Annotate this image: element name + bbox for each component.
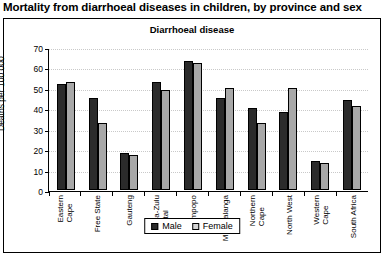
bar-group <box>50 49 82 190</box>
y-axis-tick <box>45 172 49 173</box>
chart-legend: Male Female <box>144 218 240 234</box>
page-title: Mortality from diarrhoeal diseases in ch… <box>3 1 386 13</box>
y-axis-tick-label: 0 <box>38 188 43 197</box>
bar-male[interactable] <box>343 100 352 190</box>
legend-label-male: Male <box>162 221 182 231</box>
x-axis-label-cell: South Africa <box>337 195 369 247</box>
x-axis-label: EasternCape <box>56 195 74 223</box>
legend-label-female: Female <box>203 221 233 231</box>
x-axis-label: NorthernCape <box>248 195 266 226</box>
x-axis-label-cell: North West <box>273 195 305 247</box>
x-axis-label-cell: Gauteng <box>113 195 145 247</box>
bar-female[interactable] <box>288 88 297 190</box>
bar-group <box>82 49 114 190</box>
bar-male[interactable] <box>184 61 193 190</box>
y-axis-tick-label: 10 <box>34 167 43 176</box>
y-axis-title: Deaths per 100 000 <box>0 56 6 131</box>
x-axis-label-cell: WesternCape <box>305 195 337 247</box>
plot-area: 010203040506070 <box>48 49 368 192</box>
y-axis-tick <box>45 69 49 70</box>
bar-group <box>177 49 209 190</box>
x-axis-label-cell: NorthernCape <box>241 195 273 247</box>
bar-female[interactable] <box>225 88 234 190</box>
bar-group <box>304 49 336 190</box>
legend-item-male: Male <box>151 221 182 231</box>
bar-group <box>114 49 146 190</box>
y-axis-tick <box>45 110 49 111</box>
bar-male[interactable] <box>311 161 320 190</box>
bar-female[interactable] <box>320 163 329 190</box>
plot-area-wrapper: 010203040506070 <box>48 49 368 192</box>
bar-female[interactable] <box>129 155 138 190</box>
x-axis-label: Free State <box>93 195 102 232</box>
bar-male[interactable] <box>279 112 288 190</box>
y-axis-tick <box>45 151 49 152</box>
bar-group <box>241 49 273 190</box>
x-axis-label: WesternCape <box>312 195 330 225</box>
y-axis-tick <box>45 131 49 132</box>
bar-group <box>209 49 241 190</box>
bar-female[interactable] <box>352 106 361 190</box>
bar-male[interactable] <box>89 98 98 190</box>
x-axis-label: North West <box>285 195 294 235</box>
y-axis-tick-label: 30 <box>34 126 43 135</box>
bar-male[interactable] <box>216 98 225 190</box>
y-axis-tick <box>45 90 49 91</box>
bar-group <box>145 49 177 190</box>
bar-male[interactable] <box>152 82 161 190</box>
bar-female[interactable] <box>193 63 202 190</box>
bar-male[interactable] <box>57 84 66 190</box>
bar-female[interactable] <box>161 90 170 190</box>
x-axis-label-cell: EasternCape <box>49 195 81 247</box>
bar-female[interactable] <box>257 123 266 190</box>
y-axis-tick-label: 50 <box>34 86 43 95</box>
bar-male[interactable] <box>120 153 129 190</box>
x-axis-label-cell: Free State <box>81 195 113 247</box>
chart-frame: Diarrhoeal disease Deaths per 100 000 01… <box>3 18 381 253</box>
y-axis-tick-label: 40 <box>34 106 43 115</box>
chart-title: Diarrhoeal disease <box>4 24 380 35</box>
bar-male[interactable] <box>248 108 257 190</box>
bar-female[interactable] <box>66 82 75 190</box>
y-axis-tick-label: 20 <box>34 147 43 156</box>
y-axis-tick-label: 70 <box>34 45 43 54</box>
bar-group <box>336 49 368 190</box>
x-axis-label: Gauteng <box>125 195 134 226</box>
bar-female[interactable] <box>98 123 107 190</box>
legend-swatch-male-icon <box>151 223 158 230</box>
chart-page: Mortality from diarrhoeal diseases in ch… <box>0 0 386 267</box>
bar-groups <box>50 49 368 190</box>
y-axis-tick <box>45 49 49 50</box>
legend-item-female: Female <box>192 221 233 231</box>
x-axis-label: South Africa <box>349 195 358 238</box>
bar-group <box>273 49 305 190</box>
y-axis-tick-label: 60 <box>34 65 43 74</box>
legend-swatch-female-icon <box>192 223 199 230</box>
